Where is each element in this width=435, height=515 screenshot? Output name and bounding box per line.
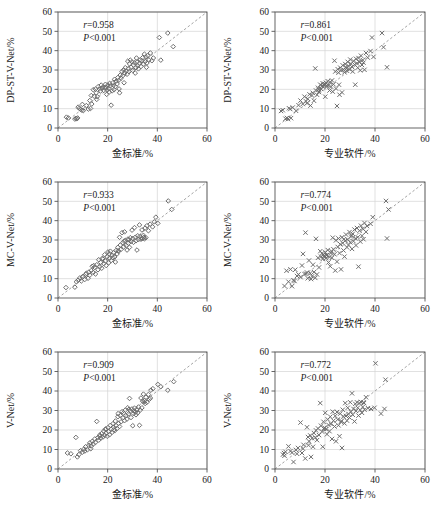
svg-text:60: 60 — [260, 177, 270, 187]
svg-text:50: 50 — [260, 197, 270, 207]
y-axis-title: MC-V-Net/% — [5, 213, 16, 267]
svg-text:20: 20 — [260, 255, 270, 265]
panel-mc-v-net-vs-software: 01020304050600204060专业软件/%MC-V-Net/%r=0.… — [217, 170, 435, 340]
svg-text:60: 60 — [420, 134, 430, 144]
correlation-annotation: r=0.774 — [301, 190, 332, 200]
svg-text:60: 60 — [43, 7, 53, 17]
svg-text:30: 30 — [260, 235, 270, 245]
y-axis-title: V-Net/% — [222, 393, 233, 428]
svg-text:20: 20 — [320, 304, 330, 314]
scatter-figure-grid: 01020304050600204060金标准/%DP-ST-V-Net/%r=… — [0, 0, 435, 515]
pvalue-annotation: P<0.001 — [300, 373, 334, 383]
svg-text:0: 0 — [47, 293, 52, 303]
svg-text:20: 20 — [103, 134, 113, 144]
svg-text:20: 20 — [103, 475, 113, 485]
svg-text:60: 60 — [202, 304, 212, 314]
svg-text:40: 40 — [43, 46, 53, 56]
panel-mc-v-net-vs-gold: 01020304050600204060金标准/%MC-V-Net/%r=0.9… — [0, 170, 217, 340]
svg-text:30: 30 — [43, 406, 53, 416]
x-axis-title: 金标准/% — [112, 147, 153, 159]
panel-v-net-vs-gold: 01020304050600204060金标准/%V-Net/%r=0.909P… — [0, 340, 217, 515]
correlation-annotation: r=0.909 — [83, 360, 114, 370]
svg-text:40: 40 — [370, 475, 380, 485]
svg-text:40: 40 — [153, 475, 163, 485]
svg-text:0: 0 — [56, 134, 61, 144]
pvalue-annotation: P<0.001 — [82, 33, 116, 43]
correlation-annotation: r=0.933 — [83, 190, 114, 200]
svg-text:60: 60 — [43, 347, 53, 357]
svg-text:40: 40 — [370, 304, 380, 314]
pvalue-annotation: P<0.001 — [300, 203, 334, 213]
svg-text:20: 20 — [320, 475, 330, 485]
panel-dp-st-v-net-vs-gold: 01020304050600204060金标准/%DP-ST-V-Net/%r=… — [0, 0, 217, 170]
pvalue-annotation: P<0.001 — [82, 203, 116, 213]
pvalue-annotation: P<0.001 — [82, 373, 116, 383]
pvalue-annotation: P<0.001 — [300, 33, 334, 43]
svg-text:40: 40 — [43, 216, 53, 226]
svg-text:50: 50 — [260, 27, 270, 37]
svg-text:10: 10 — [260, 274, 270, 284]
svg-text:20: 20 — [43, 425, 53, 435]
y-axis-title: MC-V-Net/% — [222, 213, 233, 267]
svg-text:0: 0 — [273, 475, 278, 485]
svg-text:0: 0 — [273, 134, 278, 144]
svg-text:40: 40 — [260, 216, 270, 226]
svg-text:10: 10 — [43, 104, 53, 114]
y-axis-title: DP-ST-V-Net/% — [222, 37, 233, 102]
svg-text:40: 40 — [153, 134, 163, 144]
x-axis-title: 专业软件/% — [324, 317, 375, 329]
correlation-annotation: r=0.958 — [83, 20, 114, 30]
svg-text:0: 0 — [56, 304, 61, 314]
svg-text:0: 0 — [264, 293, 269, 303]
svg-text:0: 0 — [273, 304, 278, 314]
correlation-annotation: r=0.772 — [301, 360, 332, 370]
svg-text:60: 60 — [420, 475, 430, 485]
svg-text:50: 50 — [260, 367, 270, 377]
svg-text:60: 60 — [43, 177, 53, 187]
svg-text:40: 40 — [153, 304, 163, 314]
svg-text:40: 40 — [370, 134, 380, 144]
svg-text:0: 0 — [47, 123, 52, 133]
svg-text:50: 50 — [43, 197, 53, 207]
svg-text:20: 20 — [43, 255, 53, 265]
plot-panel-r3c2: 01020304050600204060专业软件/%V-Net/%r=0.772… — [217, 340, 435, 515]
x-axis-title: 专业软件/% — [324, 147, 375, 159]
panel-v-net-vs-software: 01020304050600204060专业软件/%V-Net/%r=0.772… — [217, 340, 435, 515]
svg-text:40: 40 — [43, 386, 53, 396]
svg-text:50: 50 — [43, 367, 53, 377]
plot-panel-r1c1: 01020304050600204060金标准/%DP-ST-V-Net/%r=… — [0, 0, 217, 170]
svg-text:0: 0 — [56, 475, 61, 485]
svg-text:30: 30 — [43, 235, 53, 245]
plot-panel-r2c1: 01020304050600204060金标准/%MC-V-Net/%r=0.9… — [0, 170, 217, 340]
y-axis-title: V-Net/% — [5, 393, 16, 428]
svg-text:0: 0 — [264, 123, 269, 133]
svg-text:10: 10 — [260, 445, 270, 455]
svg-text:20: 20 — [43, 85, 53, 95]
panel-dp-st-v-net-vs-software: 01020304050600204060专业软件/%DP-ST-V-Net/%r… — [217, 0, 435, 170]
svg-text:10: 10 — [43, 274, 53, 284]
svg-text:30: 30 — [43, 65, 53, 75]
correlation-annotation: r=0.861 — [301, 20, 332, 30]
svg-text:60: 60 — [202, 475, 212, 485]
y-axis-title: DP-ST-V-Net/% — [5, 37, 16, 102]
plot-panel-r3c1: 01020304050600204060金标准/%V-Net/%r=0.909P… — [0, 340, 217, 515]
svg-text:40: 40 — [260, 386, 270, 396]
x-axis-title: 金标准/% — [112, 488, 153, 500]
svg-text:30: 30 — [260, 65, 270, 75]
svg-text:20: 20 — [260, 425, 270, 435]
svg-text:20: 20 — [260, 85, 270, 95]
x-axis-title: 专业软件/% — [324, 488, 375, 500]
svg-text:0: 0 — [47, 464, 52, 474]
svg-text:60: 60 — [260, 7, 270, 17]
svg-text:30: 30 — [260, 406, 270, 416]
svg-text:60: 60 — [260, 347, 270, 357]
svg-text:50: 50 — [43, 27, 53, 37]
svg-text:40: 40 — [260, 46, 270, 56]
svg-text:60: 60 — [420, 304, 430, 314]
svg-text:0: 0 — [264, 464, 269, 474]
plot-panel-r1c2: 01020304050600204060专业软件/%DP-ST-V-Net/%r… — [217, 0, 435, 170]
svg-text:10: 10 — [260, 104, 270, 114]
x-axis-title: 金标准/% — [112, 317, 153, 329]
svg-text:20: 20 — [103, 304, 113, 314]
svg-text:60: 60 — [202, 134, 212, 144]
